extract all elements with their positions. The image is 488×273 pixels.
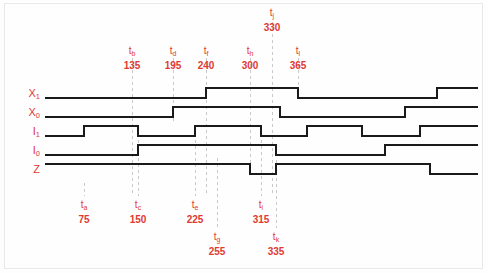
- signal-label-z: Z: [6, 164, 40, 175]
- waveform-x1: [45, 88, 478, 98]
- time-marker-subscript: a: [83, 204, 87, 211]
- signal-label-x1: X1: [6, 88, 40, 102]
- waveform-lines-layer: [45, 88, 478, 174]
- time-marker-symbol: tj: [270, 7, 274, 18]
- time-marker-value: 365: [278, 61, 318, 71]
- time-marker-te: te225: [175, 200, 215, 225]
- time-marker-value: 300: [230, 61, 270, 71]
- time-marker-symbol: ta: [81, 199, 88, 210]
- signal-label-i0: I0: [6, 145, 40, 159]
- time-marker-value: 315: [241, 215, 281, 225]
- time-marker-subscript: i: [262, 204, 264, 211]
- time-marker-subscript: k: [276, 236, 280, 243]
- time-marker-subscript: c: [138, 204, 142, 211]
- time-marker-subscript: f: [206, 50, 208, 57]
- time-marker-subscript: h: [249, 50, 253, 57]
- time-marker-value: 150: [118, 215, 158, 225]
- signal-subscript: 1: [36, 130, 40, 139]
- time-marker-subscript: d: [172, 50, 176, 57]
- time-marker-subscript: l: [299, 50, 301, 57]
- signal-name: Z: [33, 163, 40, 175]
- time-marker-value: 240: [186, 61, 226, 71]
- time-marker-symbol: tk: [273, 231, 279, 242]
- time-marker-th: th300: [230, 46, 270, 71]
- time-marker-tg: tg255: [197, 232, 237, 257]
- time-marker-symbol: tb: [129, 45, 136, 56]
- waveform-x0: [45, 107, 478, 117]
- signal-name: X: [28, 87, 35, 99]
- time-marker-symbol: tg: [214, 231, 221, 242]
- time-marker-subscript: g: [216, 236, 220, 243]
- signal-subscript: 0: [36, 111, 40, 120]
- waveform-i1: [45, 126, 478, 136]
- timing-diagram-canvas: X1X0I1I0Z tb135td195tf240th300tj330tl365…: [0, 0, 488, 273]
- time-marker-subscript: b: [131, 50, 135, 57]
- time-marker-tj: tj330: [252, 8, 292, 33]
- time-marker-symbol: tc: [135, 199, 141, 210]
- time-marker-tf: tf240: [186, 46, 226, 71]
- signal-subscript: 1: [36, 92, 40, 101]
- time-marker-value: 75: [64, 215, 104, 225]
- time-marker-value: 135: [112, 61, 152, 71]
- time-marker-value: 255: [197, 247, 237, 257]
- time-marker-symbol: te: [192, 199, 199, 210]
- time-marker-tl: tl365: [278, 46, 318, 71]
- waveform-graphics: [0, 0, 488, 273]
- time-marker-tc: tc150: [118, 200, 158, 225]
- time-marker-symbol: tf: [204, 45, 209, 56]
- time-marker-symbol: th: [247, 45, 254, 56]
- time-marker-ta: ta75: [64, 200, 104, 225]
- time-marker-value: 330: [252, 23, 292, 33]
- time-marker-ti: ti315: [241, 200, 281, 225]
- time-marker-value: 335: [256, 247, 296, 257]
- signal-label-i1: I1: [6, 126, 40, 140]
- time-marker-subscript: j: [273, 12, 275, 19]
- time-marker-symbol: tl: [296, 45, 300, 56]
- time-marker-symbol: ti: [259, 199, 263, 210]
- time-marker-value: 225: [175, 215, 215, 225]
- signal-name: X: [28, 106, 35, 118]
- signal-label-x0: X0: [6, 107, 40, 121]
- time-marker-tb: tb135: [112, 46, 152, 71]
- time-marker-symbol: td: [170, 45, 177, 56]
- signal-subscript: 0: [36, 149, 40, 158]
- time-marker-subscript: e: [194, 204, 198, 211]
- time-marker-tk: tk335: [256, 232, 296, 257]
